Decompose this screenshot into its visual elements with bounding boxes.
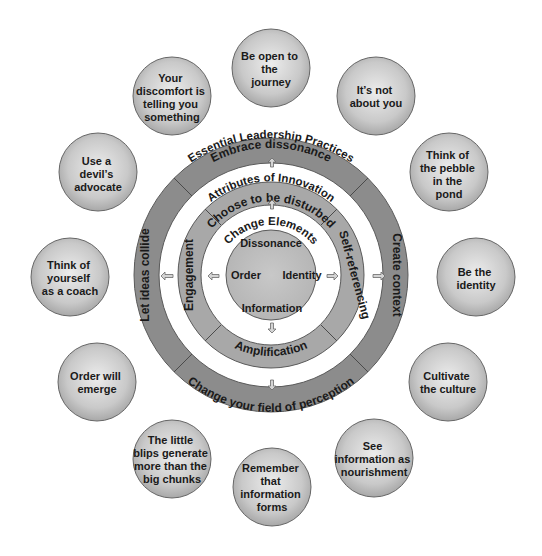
outer-ring-right-label: Create context xyxy=(390,233,404,316)
satellite-12: Your discomfort is telling you something xyxy=(133,57,211,135)
svg-text:Think of yourself: Think of yourself as a coach xyxy=(42,259,99,297)
svg-text:It’s not about you: It’s not about you xyxy=(350,84,403,109)
satellite-5: Cultivate the culture xyxy=(409,343,487,421)
satellite-8: The little blips generate more than the … xyxy=(133,420,211,498)
satellite-2: It’s not about you xyxy=(337,57,415,135)
satellite-10: Think of yourself as a coach xyxy=(31,238,109,316)
core-bottom-label: Information xyxy=(242,302,303,314)
satellite-11: Use a devil’s advocate xyxy=(59,133,137,211)
satellite-1: Be open to the journey xyxy=(232,29,310,107)
core-top-label: Dissonance xyxy=(240,237,302,249)
satellite-3: Think of the pebble in the pond xyxy=(410,133,488,211)
svg-text:Be the identity: Be the identity xyxy=(456,266,496,291)
satellite-6: See information as nourishment xyxy=(335,419,414,497)
middle-ring-left-label: Engagement xyxy=(182,239,196,311)
svg-text:Cultivate the culture: Cultivate the culture xyxy=(420,370,476,395)
innovation-leadership-diagram: Essential Leadership Practices Embrace d… xyxy=(0,0,542,556)
core-left-label: Order xyxy=(231,269,262,281)
satellite-9: Order will emerge xyxy=(58,343,136,421)
outer-ring-left-label: Let ideas collide xyxy=(138,228,152,322)
svg-text:Order will emerge: Order will emerge xyxy=(70,370,124,395)
satellite-4: Be the identity xyxy=(437,238,515,316)
satellite-7: Remember that information forms xyxy=(233,448,311,526)
core-right-label: Identity xyxy=(282,269,322,281)
